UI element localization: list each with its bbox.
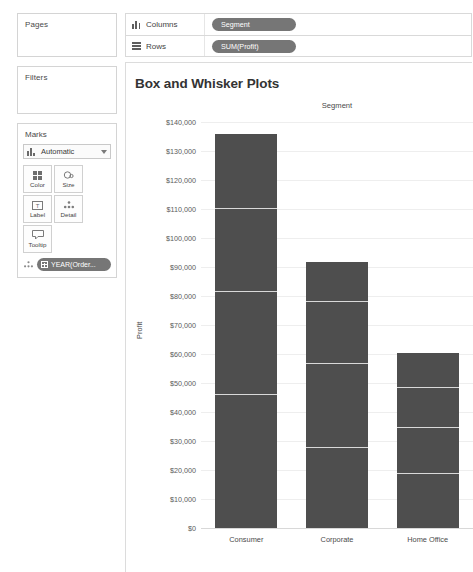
rows-pill-sum-profit[interactable]: SUM(Profit) <box>212 40 296 53</box>
mark-type-label: Automatic <box>41 147 101 156</box>
bar-segment-divider <box>215 394 277 395</box>
y-axis-tick-label: $120,000 <box>132 176 196 185</box>
detail-dots-icon <box>63 200 75 211</box>
columns-shelf-label: Columns <box>146 20 178 29</box>
y-gridline <box>201 528 473 529</box>
y-axis-tick-label: $50,000 <box>132 379 196 388</box>
marks-label-button[interactable]: T Label <box>23 195 52 223</box>
y-axis-tick-label: $60,000 <box>132 350 196 359</box>
y-axis-title: Profit <box>135 322 144 339</box>
size-icon <box>63 170 75 181</box>
bar-segment-divider <box>306 447 368 448</box>
x-axis-tick-label[interactable]: Corporate <box>292 535 383 544</box>
filters-shelf-title: Filters <box>18 67 116 87</box>
marks-detail-button[interactable]: Detail <box>54 195 83 223</box>
color-palette-icon <box>32 170 44 181</box>
detail-dots-icon <box>23 260 34 270</box>
bar-segment-divider <box>397 387 459 388</box>
bar-segment-divider <box>306 363 368 364</box>
y-axis-tick-label: $100,000 <box>132 234 196 243</box>
shelf-sidebar: Pages Filters Marks Automatic Color <box>17 13 117 278</box>
columns-pill-segment[interactable]: Segment <box>212 18 296 31</box>
bar-segment-divider <box>215 208 277 209</box>
marks-color-label: Color <box>30 182 45 188</box>
columns-shelf-label-box: Columns <box>126 14 205 35</box>
svg-text:T: T <box>36 202 40 208</box>
bar-home-office[interactable] <box>397 353 459 528</box>
y-axis-tick-label: $110,000 <box>132 205 196 214</box>
label-text-icon: T <box>32 200 44 211</box>
bar-segment-divider <box>306 301 368 302</box>
rows-icon <box>132 42 141 50</box>
y-axis-tick-label: $10,000 <box>132 495 196 504</box>
rows-shelf-label: Rows <box>146 42 166 51</box>
y-axis-tick-label: $130,000 <box>132 147 196 156</box>
marks-card-title: Marks <box>18 124 116 143</box>
pages-shelf[interactable]: Pages <box>17 13 117 57</box>
x-axis-tick-label[interactable]: Consumer <box>201 535 292 544</box>
bar-consumer[interactable] <box>215 134 277 528</box>
marks-color-button[interactable]: Color <box>23 165 52 193</box>
columns-shelf[interactable]: Columns Segment <box>125 13 472 35</box>
marks-pill-row: YEAR(Order... <box>18 253 116 271</box>
tooltip-icon <box>32 230 44 241</box>
mark-type-dropdown[interactable]: Automatic <box>23 144 111 159</box>
y-axis-tick-label: $40,000 <box>132 408 196 417</box>
bar-segment-divider <box>215 291 277 292</box>
mark-buttons: Color Size T <box>18 165 116 253</box>
rows-shelf-label-box: Rows <box>126 36 205 56</box>
bar-chart-plot[interactable]: $140,000$130,000$120,000$110,000$100,000… <box>126 63 473 572</box>
marks-label-label: Label <box>30 212 45 218</box>
y-axis-tick-label: $0 <box>132 524 196 533</box>
marks-card: Marks Automatic Color <box>17 123 117 278</box>
y-gridline <box>201 122 473 123</box>
columns-icon <box>132 21 141 29</box>
y-axis-tick-label: $30,000 <box>132 437 196 446</box>
pages-shelf-title: Pages <box>18 14 116 34</box>
viz-pane[interactable]: Box and Whisker Plots Segment $140,000$1… <box>125 62 472 572</box>
chevron-down-icon[interactable] <box>101 150 107 154</box>
rows-shelf[interactable]: Rows SUM(Profit) <box>125 35 472 57</box>
marks-pill-label: YEAR(Order... <box>51 261 96 268</box>
y-axis-tick-label: $140,000 <box>132 118 196 127</box>
y-axis-tick-label: $20,000 <box>132 466 196 475</box>
calendar-icon <box>41 261 48 268</box>
x-axis-tick-label[interactable]: Home Office <box>382 535 473 544</box>
marks-year-order-date-pill[interactable]: YEAR(Order... <box>37 258 111 271</box>
marks-tooltip-button[interactable]: Tooltip <box>23 225 52 253</box>
marks-size-label: Size <box>62 182 74 188</box>
bar-mark-icon <box>27 147 38 156</box>
columns-pill-label: Segment <box>221 20 250 29</box>
rows-pill-label: SUM(Profit) <box>221 42 259 51</box>
bar-corporate[interactable] <box>306 262 368 528</box>
filters-shelf[interactable]: Filters <box>17 66 117 114</box>
marks-detail-label: Detail <box>61 212 77 218</box>
y-axis-tick-label: $80,000 <box>132 292 196 301</box>
marks-size-button[interactable]: Size <box>54 165 83 193</box>
y-axis-tick-label: $90,000 <box>132 263 196 272</box>
marks-tooltip-label: Tooltip <box>29 242 47 248</box>
shelf-area: Columns Segment Rows SUM(Profit) <box>125 13 472 57</box>
bar-segment-divider <box>397 427 459 428</box>
bar-segment-divider <box>397 473 459 474</box>
